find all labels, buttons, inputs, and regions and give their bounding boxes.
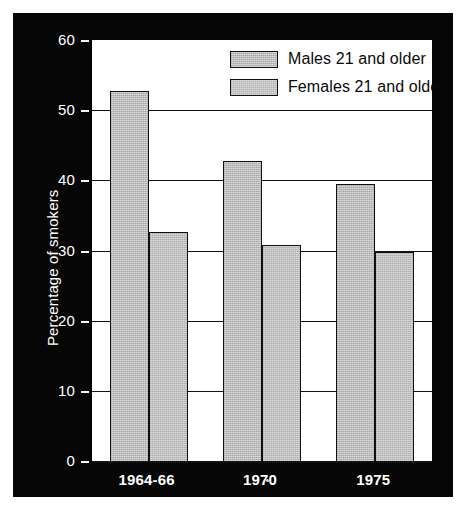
bar-males-1964-66 [110, 91, 149, 462]
y-tick-mark-50 [81, 110, 89, 112]
x-axis-label-1964-66: 1964-66 [87, 471, 207, 488]
y-tick-label-60: 60 [33, 32, 75, 47]
legend-swatch-females-icon [230, 79, 278, 96]
y-tick-label-20: 20 [33, 313, 75, 328]
legend-label-females: Females 21 and older [288, 78, 445, 96]
bar-males-1970 [223, 161, 262, 462]
y-tick-mark-10 [81, 391, 89, 393]
bar-males-1975 [336, 184, 375, 462]
bar-females-1964-66 [149, 232, 188, 462]
y-tick-mark-20 [81, 321, 89, 323]
y-tick-mark-60 [81, 40, 89, 42]
bar-females-1975 [375, 252, 414, 462]
bar-females-1970 [262, 245, 301, 462]
y-tick-mark-0 [81, 461, 89, 463]
y-tick-label-30: 30 [33, 243, 75, 258]
y-tick-label-10: 10 [33, 383, 75, 398]
y-tick-mark-30 [81, 251, 89, 253]
legend-item-females: Females 21 and older [230, 75, 426, 99]
plot-inner: Males 21 and older Females 21 and older [92, 40, 432, 461]
chart-figure: Percentage of smokers 0102030405060 Male… [0, 0, 466, 510]
y-tick-label-0: 0 [33, 453, 75, 468]
y-tick-label-40: 40 [33, 172, 75, 187]
speck-artifact [266, 479, 269, 482]
y-tick-label-50: 50 [33, 102, 75, 117]
chart-legend: Males 21 and older Females 21 and older [230, 47, 426, 103]
x-axis-label-1970: 1970 [200, 471, 320, 488]
plot-area: Males 21 and older Females 21 and older [90, 40, 432, 461]
x-axis-label-1975: 1975 [313, 471, 433, 488]
legend-item-males: Males 21 and older [230, 47, 426, 71]
y-tick-mark-40 [81, 180, 89, 182]
legend-swatch-males-icon [230, 51, 278, 68]
legend-label-males: Males 21 and older [288, 50, 426, 68]
